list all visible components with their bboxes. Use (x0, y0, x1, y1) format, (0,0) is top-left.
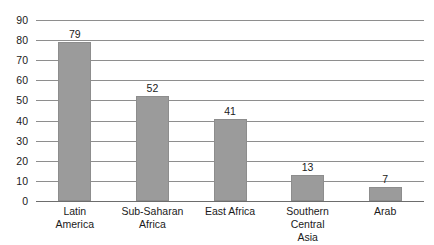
bar[interactable] (291, 175, 324, 201)
bars-layer: 795241137 (36, 20, 424, 201)
x-axis-category-label: Sub-SaharanAfrica (114, 205, 192, 231)
x-axis-category-label: Arab (346, 205, 424, 218)
x-axis-category-label-line: America (36, 218, 114, 231)
y-axis-tick-label: 70 (2, 55, 28, 66)
bar[interactable] (214, 119, 247, 201)
bar-chart: 0102030405060708090 795241137 LatinAmeri… (0, 0, 434, 245)
x-axis-category-label-line: Asia (269, 231, 347, 244)
y-axis-tick-label: 80 (2, 35, 28, 46)
y-axis-tick-label: 30 (2, 135, 28, 146)
bar[interactable] (136, 96, 169, 201)
bar-value-label: 41 (210, 106, 250, 117)
x-axis-category-label: LatinAmerica (36, 205, 114, 231)
bar-value-label: 13 (288, 162, 328, 173)
gridline (36, 201, 424, 202)
bar-value-label: 7 (365, 174, 405, 185)
x-axis-category-label-line: Latin (36, 205, 114, 218)
bar-value-label: 79 (55, 29, 95, 40)
y-axis-tick-label: 10 (2, 176, 28, 187)
y-axis-tick-label: 40 (2, 115, 28, 126)
x-axis: LatinAmericaSub-SaharanAfricaEast Africa… (36, 205, 424, 243)
y-axis-tick-label: 90 (2, 15, 28, 26)
x-axis-category-label-line: Sub-Saharan (114, 205, 192, 218)
x-axis-category-label-line: Southern Central (269, 205, 347, 231)
x-axis-category-label-line: East Africa (191, 205, 269, 218)
x-axis-category-label-line: Arab (346, 205, 424, 218)
x-axis-category-label-line: Africa (114, 218, 192, 231)
y-axis-tick-label: 60 (2, 75, 28, 86)
y-axis-tick-label: 0 (2, 196, 28, 207)
bar-value-label: 52 (132, 83, 172, 94)
y-axis-tick-label: 20 (2, 156, 28, 167)
bar[interactable] (369, 187, 402, 201)
x-axis-category-label: East Africa (191, 205, 269, 218)
bar[interactable] (58, 42, 91, 201)
y-axis-tick-label: 50 (2, 95, 28, 106)
x-axis-category-label: Southern CentralAsia (269, 205, 347, 244)
